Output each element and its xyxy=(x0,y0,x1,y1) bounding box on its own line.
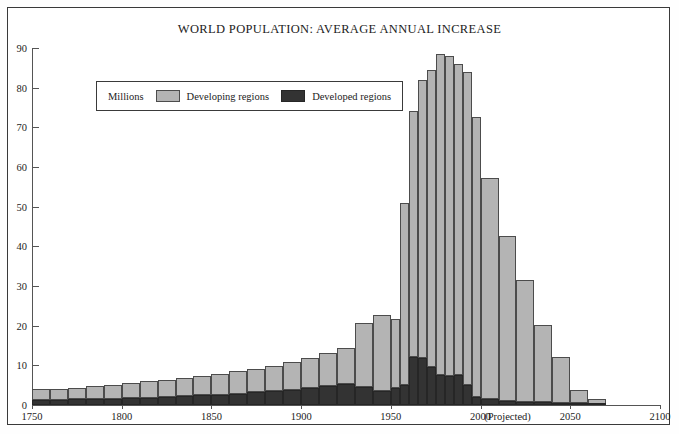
bar xyxy=(50,48,68,405)
bar-segment-developing xyxy=(355,323,373,387)
projected-annotation: (Projected) xyxy=(484,411,531,422)
bar xyxy=(481,48,499,405)
bar-segment-developing xyxy=(32,389,50,400)
y-tick xyxy=(32,405,39,406)
bar xyxy=(516,48,534,405)
legend-title: Millions xyxy=(108,91,144,102)
x-tick-label: 1750 xyxy=(22,411,43,422)
y-tick xyxy=(32,246,39,247)
bar xyxy=(570,48,588,405)
bar xyxy=(32,48,50,405)
bar xyxy=(463,48,472,405)
legend-label-developed: Developed regions xyxy=(312,91,391,102)
bar-segment-developing xyxy=(211,374,229,395)
bar-segment-developed xyxy=(534,402,552,405)
y-tick xyxy=(32,88,39,89)
bar-segment-developing xyxy=(373,315,391,390)
bar-segment-developing xyxy=(283,362,301,389)
bar-segment-developed xyxy=(176,396,194,405)
x-tick-label: 2050 xyxy=(560,411,581,422)
bar-segment-developed xyxy=(211,395,229,405)
bar-segment-developed xyxy=(400,385,409,405)
bar-segment-developing xyxy=(86,386,104,399)
bar-segment-developing xyxy=(176,378,194,396)
bar-segment-developed xyxy=(436,375,445,405)
bar-segment-developed xyxy=(391,388,400,405)
bar-segment-developing xyxy=(463,72,472,385)
x-tick xyxy=(211,405,212,409)
bar-segment-developing xyxy=(140,381,158,398)
y-tick-label: 60 xyxy=(17,162,28,173)
y-tick-label: 20 xyxy=(17,320,28,331)
bar xyxy=(499,48,517,405)
bar-segment-developed xyxy=(247,392,265,405)
bar-segment-developed xyxy=(229,394,247,406)
bar-segment-developing xyxy=(436,54,445,375)
x-tick-label: 1800 xyxy=(111,411,132,422)
bar-segment-developed xyxy=(158,397,176,405)
legend-swatch-developing-icon xyxy=(156,90,180,102)
x-axis-line xyxy=(32,405,661,406)
x-tick-label: 1900 xyxy=(291,411,312,422)
bar-segment-developed xyxy=(472,397,481,405)
bar-segment-developing xyxy=(104,385,122,399)
bar-segment-developing xyxy=(68,388,86,400)
x-tick xyxy=(660,405,661,409)
bar xyxy=(588,48,606,405)
bar-segment-developed xyxy=(319,386,337,405)
y-tick-label: 80 xyxy=(17,82,28,93)
bar-segment-developed xyxy=(499,401,517,405)
bar xyxy=(454,48,463,405)
bar xyxy=(68,48,86,405)
bar-segment-developing xyxy=(516,280,534,401)
bar-segment-developed xyxy=(265,391,283,405)
bar-segment-developing xyxy=(229,371,247,393)
y-tick-label: 10 xyxy=(17,360,28,371)
bar-segment-developed xyxy=(418,358,427,405)
bar-segment-developed xyxy=(516,402,534,405)
chart-title: WORLD POPULATION: AVERAGE ANNUAL INCREAS… xyxy=(8,22,671,37)
chart-frame: WORLD POPULATION: AVERAGE ANNUAL INCREAS… xyxy=(7,7,670,425)
x-tick xyxy=(391,405,392,409)
bar-segment-developed xyxy=(283,390,301,405)
bar-segment-developing xyxy=(247,369,265,393)
bar-segment-developed xyxy=(104,399,122,405)
bar-segment-developing xyxy=(400,203,409,385)
y-tick xyxy=(32,167,39,168)
y-tick-label: 90 xyxy=(17,43,28,54)
legend-item-developing: Developing regions xyxy=(156,90,270,102)
bar-segment-developed xyxy=(454,375,463,405)
x-tick xyxy=(301,405,302,409)
bar-segment-developing xyxy=(418,80,427,358)
x-tick-label: 2100 xyxy=(650,411,671,422)
x-tick-label: 1950 xyxy=(380,411,401,422)
bar-segment-developing xyxy=(391,319,400,388)
bar-segment-developing xyxy=(301,358,319,387)
legend-swatch-developed-icon xyxy=(281,90,305,102)
y-tick xyxy=(32,127,39,128)
y-tick xyxy=(32,286,39,287)
bar-segment-developed xyxy=(409,357,418,405)
bar-segment-developing xyxy=(193,376,211,396)
bar-segment-developed xyxy=(301,388,319,405)
bar-segment-developing xyxy=(158,380,176,397)
bar-segment-developing xyxy=(454,64,463,375)
bar-segment-developing xyxy=(427,70,436,368)
bar-segment-developed xyxy=(68,399,86,405)
bar xyxy=(418,48,427,405)
bar-segment-developing xyxy=(481,178,499,399)
y-tick-label: 70 xyxy=(17,122,28,133)
legend-item-developed: Developed regions xyxy=(281,90,391,102)
chart-figure: WORLD POPULATION: AVERAGE ANNUAL INCREAS… xyxy=(0,0,679,434)
y-tick xyxy=(32,207,39,208)
bar xyxy=(409,48,418,405)
bar-segment-developed xyxy=(481,399,499,405)
bar-segment-developed xyxy=(588,403,606,405)
bar-segment-developed xyxy=(355,387,373,405)
bar-segment-developing xyxy=(499,236,517,401)
x-tick xyxy=(570,405,571,409)
x-tick xyxy=(32,405,33,409)
bar-segment-developed xyxy=(570,403,588,405)
bar-segment-developed xyxy=(463,385,472,405)
bar xyxy=(436,48,445,405)
